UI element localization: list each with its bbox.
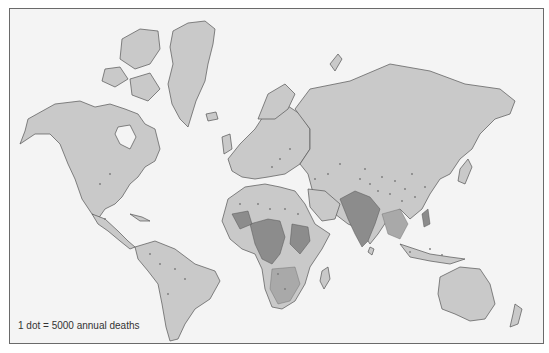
- iceland: [206, 112, 218, 121]
- uk: [222, 134, 232, 154]
- japan: [458, 159, 472, 184]
- central-america: [92, 214, 135, 249]
- australia: [438, 267, 495, 321]
- indonesia: [400, 244, 465, 264]
- south-america: [135, 241, 220, 341]
- arctic-islands: [120, 29, 160, 69]
- madagascar: [320, 267, 330, 289]
- philippines: [422, 209, 430, 227]
- new-zealand: [510, 304, 522, 327]
- world-map: [10, 9, 544, 344]
- greenland: [168, 21, 215, 127]
- map-frame: 1 dot = 5000 annual deaths: [9, 8, 544, 344]
- map-legend: 1 dot = 5000 annual deaths: [18, 320, 140, 331]
- north-america: [20, 101, 160, 219]
